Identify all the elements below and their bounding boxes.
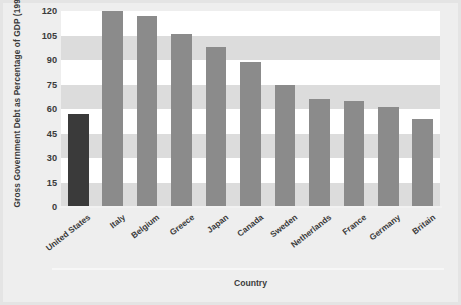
plot-area	[61, 11, 440, 207]
y-axis-tick-label: 30	[47, 153, 57, 163]
bar[interactable]	[102, 11, 123, 207]
bar[interactable]	[68, 114, 89, 207]
bar[interactable]	[344, 101, 365, 207]
x-axis-title-rule	[52, 268, 444, 270]
x-axis-tick-labels: United StatesItalyBelgiumGreeceJapanCana…	[61, 208, 440, 264]
bar[interactable]	[309, 99, 330, 207]
y-axis-tick-labels: 0153045607590105120	[34, 11, 60, 207]
y-axis-tick-label: 45	[47, 129, 57, 139]
figure-border-top	[0, 0, 461, 3]
bar[interactable]	[412, 119, 433, 207]
x-axis-tick-label: United States	[31, 212, 92, 263]
bar[interactable]	[275, 85, 296, 208]
x-axis-title-text: Country	[234, 278, 267, 288]
y-axis-title: Gross Government Debt as Percentage of G…	[0, 0, 34, 215]
y-axis-tick-label: 15	[47, 178, 57, 188]
bar[interactable]	[171, 34, 192, 207]
bar[interactable]	[240, 62, 261, 207]
y-axis-tick-label: 60	[47, 104, 57, 114]
y-axis-tick-label: 0	[52, 202, 57, 212]
bar[interactable]	[206, 47, 227, 207]
bars-layer	[61, 11, 440, 207]
y-axis-tick-label: 75	[47, 80, 57, 90]
y-axis-tick-label: 105	[42, 31, 57, 41]
bar[interactable]	[137, 16, 158, 207]
bar[interactable]	[378, 107, 399, 207]
y-axis-title-text: Gross Government Debt as Percentage of G…	[12, 8, 23, 208]
x-axis-title: Country	[61, 272, 440, 290]
bar-chart-figure: Gross Government Debt as Percentage of G…	[0, 0, 461, 305]
y-axis-tick-label: 90	[47, 55, 57, 65]
y-axis-tick-label: 120	[42, 6, 57, 16]
